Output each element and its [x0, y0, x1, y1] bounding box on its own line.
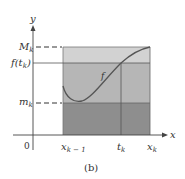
M-k-label: Mk — [18, 41, 34, 54]
x-axis-label: x — [170, 129, 176, 140]
riemann-bounds-diagram: y x 0 Mk f(tk) mk xk − 1 tk xk f (b) — [0, 0, 185, 179]
y-axis-label: y — [29, 13, 36, 24]
middle-band — [63, 63, 150, 103]
x-axis-arrow-icon — [162, 133, 168, 138]
origin-label: 0 — [24, 141, 30, 151]
lower-band — [63, 103, 150, 135]
m-k-label: mk — [19, 96, 33, 109]
x-k-label: xk — [147, 141, 157, 154]
y-axis-arrow-icon — [31, 25, 36, 31]
x-k-minus-1-label: xk − 1 — [61, 141, 86, 154]
figure-caption: (b) — [84, 162, 98, 173]
upper-band — [63, 47, 150, 63]
f-t-k-label: f(tk) — [10, 57, 31, 70]
t-k-label: tk — [117, 141, 125, 154]
